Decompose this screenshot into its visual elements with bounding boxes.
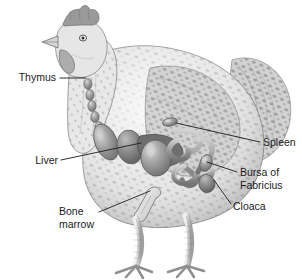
foot-near (116, 266, 152, 278)
label-bone-marrow-line1: Bone (59, 205, 84, 217)
head (42, 6, 107, 78)
label-bursa-of-fabricius: Bursa of Fabricius (240, 166, 283, 191)
label-bursa-line1: Bursa of (240, 166, 279, 178)
foot-far (168, 266, 204, 277)
label-bone-marrow-line2: marrow (59, 218, 94, 230)
comb (63, 6, 99, 27)
label-spleen: Spleen (263, 136, 296, 148)
label-cloaca: Cloaca (233, 200, 266, 212)
label-bone-marrow: Bone marrow (59, 205, 94, 230)
chicken-anatomy-figure: Thymus Liver Bone marrow Spleen Bursa of… (0, 0, 302, 280)
chicken-illustration (42, 6, 291, 279)
chicken-anatomy-illustration: Thymus Liver Bone marrow Spleen Bursa of… (0, 0, 302, 280)
label-liver: Liver (35, 154, 58, 166)
label-bursa-line2: Fabricius (240, 179, 283, 191)
beak (42, 36, 58, 48)
eye (79, 35, 86, 41)
label-thymus: Thymus (19, 71, 56, 83)
